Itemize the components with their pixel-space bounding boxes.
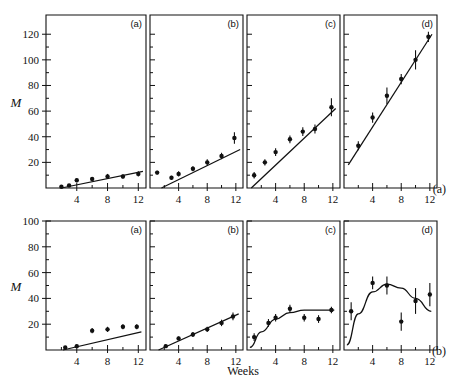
row-label-1: (a) xyxy=(433,182,446,196)
data-point xyxy=(288,135,292,143)
marker xyxy=(273,150,277,154)
y-tick-label: 100 xyxy=(23,215,40,227)
panel-row-b-panel-b: 4812(b) xyxy=(150,221,243,367)
panel-row-b-panel-d: 4812(d) xyxy=(344,221,437,367)
marker xyxy=(135,325,139,329)
panel-letter-label: (c) xyxy=(325,18,336,29)
y-axis-title-row-1: M xyxy=(10,95,23,110)
marker xyxy=(121,325,125,329)
marker xyxy=(370,115,374,119)
marker xyxy=(302,316,306,320)
figure-container: 204060801001204812(a)4812(b)4812(c)4812(… xyxy=(0,0,454,389)
marker xyxy=(205,327,209,331)
x-tick-label: 8 xyxy=(105,355,111,367)
marker xyxy=(205,160,209,164)
marker xyxy=(155,170,159,174)
marker xyxy=(231,314,235,318)
data-point xyxy=(301,127,305,136)
x-tick-label: 4 xyxy=(273,355,279,367)
fit-line xyxy=(161,150,240,188)
panel-frame xyxy=(344,15,437,188)
data-point xyxy=(164,344,168,348)
panel-letter-label: (b) xyxy=(227,18,239,29)
panel-letter-label: (a) xyxy=(130,18,142,29)
marker xyxy=(426,35,430,39)
panel-letter-label: (d) xyxy=(421,18,433,29)
fit-line xyxy=(251,109,335,188)
data-point xyxy=(370,276,374,289)
y-tick-label: 100 xyxy=(23,54,40,66)
panel-frame xyxy=(344,221,437,350)
x-tick-label: 12 xyxy=(133,355,144,367)
y-axis-title-row-2: M xyxy=(10,279,23,294)
data-point xyxy=(252,172,256,178)
marker xyxy=(385,94,389,98)
marker xyxy=(136,172,140,176)
marker xyxy=(121,174,125,178)
x-tick-label: 8 xyxy=(398,355,404,367)
data-point xyxy=(90,177,94,181)
data-point xyxy=(413,50,417,69)
data-point xyxy=(135,324,139,329)
multi-panel-scatter-figure: 204060801001204812(a)4812(b)4812(c)4812(… xyxy=(0,0,454,389)
panel-row-a-panel-c: 4812(c) xyxy=(247,15,340,205)
fit-line xyxy=(348,34,432,165)
panel-frame xyxy=(150,15,243,188)
fit-line xyxy=(347,284,431,345)
data-point xyxy=(370,112,374,122)
marker xyxy=(288,307,292,311)
data-point xyxy=(349,302,353,320)
data-point xyxy=(191,332,195,337)
y-tick-label: 60 xyxy=(28,105,40,117)
x-tick-label: 12 xyxy=(327,355,338,367)
marker xyxy=(252,173,256,177)
marker xyxy=(169,176,173,180)
marker xyxy=(301,129,305,133)
marker xyxy=(329,308,333,312)
x-tick-label: 4 xyxy=(176,193,182,205)
x-tick-label: 8 xyxy=(105,193,111,205)
marker xyxy=(232,136,236,140)
y-tick-label: 80 xyxy=(28,79,40,91)
data-point xyxy=(288,305,292,313)
data-point xyxy=(263,159,267,165)
marker xyxy=(219,154,223,158)
y-tick-label: 120 xyxy=(23,28,40,40)
panel-letter-label: (a) xyxy=(130,224,142,235)
data-point xyxy=(169,176,173,180)
y-tick-label: 40 xyxy=(28,131,40,143)
marker xyxy=(176,172,180,176)
x-tick-label: 4 xyxy=(370,193,376,205)
x-tick-label: 12 xyxy=(133,193,144,205)
x-tick-label: 8 xyxy=(301,355,307,367)
marker xyxy=(428,292,432,296)
marker xyxy=(266,321,270,325)
data-point xyxy=(356,141,360,150)
data-point xyxy=(329,307,333,313)
panel-frame xyxy=(247,221,340,350)
marker xyxy=(105,174,109,178)
x-tick-label: 8 xyxy=(204,193,210,205)
y-tick-label: 40 xyxy=(28,292,40,304)
fit-line xyxy=(159,314,239,350)
marker xyxy=(252,335,256,339)
data-point xyxy=(67,183,71,187)
data-point xyxy=(176,336,180,340)
x-tick-label: 8 xyxy=(398,193,404,205)
panel-letter-label: (c) xyxy=(325,224,336,235)
marker xyxy=(356,144,360,148)
data-point xyxy=(399,313,403,331)
x-tick-label: 4 xyxy=(370,355,376,367)
marker xyxy=(399,77,403,81)
x-tick-label: 12 xyxy=(230,193,241,205)
y-tick-label: 80 xyxy=(28,241,40,253)
marker xyxy=(75,344,79,348)
y-tick-label: 60 xyxy=(28,267,40,279)
marker xyxy=(105,327,109,331)
marker xyxy=(413,299,417,303)
marker xyxy=(219,321,223,325)
data-point xyxy=(316,315,320,323)
data-point xyxy=(105,327,109,332)
data-point xyxy=(63,345,67,349)
panel-row-b-panel-c: 4812(c) xyxy=(247,221,340,367)
